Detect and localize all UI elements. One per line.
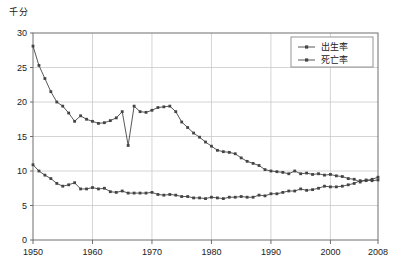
series-marker bbox=[335, 174, 338, 177]
y-axis-tick-labels: 051015202530 bbox=[17, 28, 27, 245]
series-marker bbox=[38, 64, 41, 67]
series-marker bbox=[270, 170, 273, 173]
y-tick-label: 10 bbox=[17, 166, 27, 176]
series-marker bbox=[91, 186, 94, 189]
x-tick-label: 2000 bbox=[320, 247, 340, 257]
series-marker bbox=[228, 196, 231, 199]
series-marker bbox=[67, 112, 70, 115]
series-marker bbox=[365, 179, 368, 182]
series-marker bbox=[139, 192, 142, 195]
series-marker bbox=[109, 119, 112, 122]
series-marker bbox=[329, 173, 332, 176]
series-marker bbox=[32, 163, 35, 166]
series-marker bbox=[329, 185, 332, 188]
series-marker bbox=[133, 105, 136, 108]
series-marker bbox=[293, 190, 296, 193]
series-marker bbox=[252, 162, 255, 165]
series-marker bbox=[97, 188, 100, 191]
series-marker bbox=[377, 176, 380, 179]
series-marker bbox=[204, 141, 207, 144]
series-marker bbox=[192, 132, 195, 135]
series-marker bbox=[228, 151, 231, 154]
legend-marker-swatch bbox=[305, 58, 308, 61]
x-tick-label: 1970 bbox=[142, 247, 162, 257]
series-marker bbox=[305, 189, 308, 192]
series-marker bbox=[204, 197, 207, 200]
series-marker bbox=[49, 90, 52, 93]
series-marker bbox=[44, 174, 47, 177]
legend-label: 死亡率 bbox=[321, 54, 348, 65]
series-marker bbox=[287, 172, 290, 175]
series-marker bbox=[79, 114, 82, 117]
series-marker bbox=[246, 196, 249, 199]
series-marker bbox=[299, 188, 302, 191]
series-marker bbox=[275, 192, 278, 195]
series-marker bbox=[353, 178, 356, 181]
series-marker bbox=[222, 197, 225, 200]
series-marker bbox=[234, 152, 237, 155]
series-marker bbox=[210, 196, 213, 199]
line-chart: 051015202530 195019601970198019902000200… bbox=[0, 0, 396, 268]
x-tick-label: 1950 bbox=[23, 247, 43, 257]
series-marker bbox=[139, 110, 142, 113]
series-marker bbox=[115, 191, 118, 194]
series-marker bbox=[44, 77, 47, 80]
series-marker bbox=[216, 197, 219, 200]
series-marker bbox=[287, 190, 290, 193]
x-axis-tick-labels: 1950196019701980199020002008 bbox=[23, 247, 388, 257]
series-marker bbox=[73, 120, 76, 123]
series-marker bbox=[240, 156, 243, 159]
series-marker bbox=[275, 170, 278, 173]
data-series bbox=[32, 163, 380, 200]
x-tick-label: 2008 bbox=[368, 247, 388, 257]
series-marker bbox=[264, 194, 267, 197]
series-marker bbox=[192, 197, 195, 200]
series-marker bbox=[55, 182, 58, 185]
series-marker bbox=[162, 194, 165, 197]
y-tick-label: 20 bbox=[17, 97, 27, 107]
series-marker bbox=[186, 195, 189, 198]
series-marker bbox=[55, 101, 58, 104]
series-marker bbox=[133, 192, 136, 195]
legend-marker-swatch bbox=[305, 45, 308, 48]
series-marker bbox=[377, 179, 380, 182]
series-marker bbox=[38, 170, 41, 173]
series-marker bbox=[168, 193, 171, 196]
series-marker bbox=[258, 164, 261, 167]
series-marker bbox=[32, 45, 35, 48]
series-marker bbox=[151, 109, 154, 112]
series-marker bbox=[151, 191, 154, 194]
series-marker bbox=[49, 177, 52, 180]
series-marker bbox=[157, 106, 160, 109]
series-marker bbox=[347, 183, 350, 186]
y-tick-label: 30 bbox=[17, 28, 27, 38]
series-marker bbox=[246, 160, 249, 163]
series-marker bbox=[335, 185, 338, 188]
series-marker bbox=[341, 175, 344, 178]
series-marker bbox=[162, 105, 165, 108]
series-marker bbox=[174, 110, 177, 113]
series-marker bbox=[341, 185, 344, 188]
y-tick-label: 15 bbox=[17, 132, 27, 142]
series-marker bbox=[317, 187, 320, 190]
series-marker bbox=[73, 181, 76, 184]
series-marker bbox=[61, 185, 64, 188]
series-marker bbox=[305, 172, 308, 175]
series-marker bbox=[61, 105, 64, 108]
series-marker bbox=[186, 126, 189, 129]
series-marker bbox=[293, 170, 296, 173]
series-marker bbox=[168, 105, 171, 108]
series-marker bbox=[67, 183, 70, 186]
series-marker bbox=[240, 195, 243, 198]
series-marker bbox=[234, 196, 237, 199]
series-marker bbox=[103, 187, 106, 190]
chart-figure: 千分 051015202530 195019601970198019902000… bbox=[0, 0, 396, 268]
x-tick-label: 1980 bbox=[201, 247, 221, 257]
series-marker bbox=[145, 111, 148, 114]
series-marker bbox=[85, 188, 88, 191]
series-marker bbox=[121, 110, 124, 113]
series-marker bbox=[216, 149, 219, 152]
series-marker bbox=[180, 195, 183, 198]
series-marker bbox=[121, 190, 124, 193]
series-marker bbox=[127, 144, 130, 147]
